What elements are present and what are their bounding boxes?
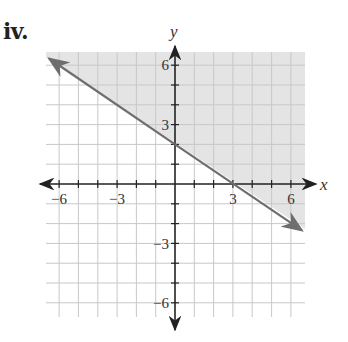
y-axis-label: y — [168, 22, 178, 41]
y-tick-label: −3 — [153, 236, 169, 252]
y-tick-label: 3 — [162, 117, 170, 133]
y-tick-label: 6 — [162, 57, 170, 73]
y-tick-label: −6 — [153, 295, 169, 311]
x-tick-label: 6 — [287, 191, 295, 207]
x-tick-label: −3 — [109, 191, 125, 207]
coordinate-plane: −6 −3 3 6 6 3 −3 −6 x y — [0, 0, 348, 342]
x-axis-label: x — [319, 175, 328, 194]
x-tick-label: 3 — [229, 191, 237, 207]
x-tick-label: −6 — [51, 191, 67, 207]
